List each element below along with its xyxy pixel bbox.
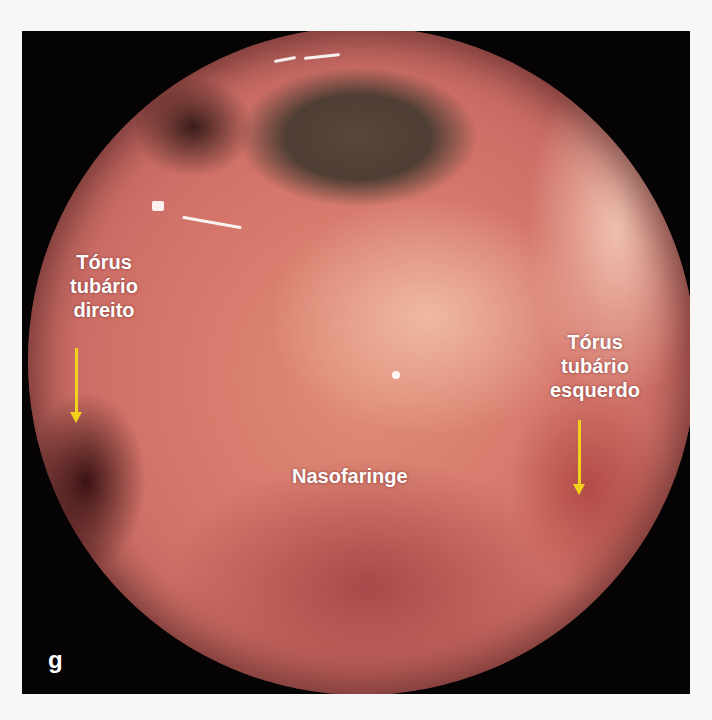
specular-highlight bbox=[392, 371, 400, 379]
arrow-right-torus-icon bbox=[75, 348, 78, 413]
label-line: tubário bbox=[50, 274, 158, 298]
label-line: Tórus bbox=[50, 250, 158, 274]
label-left-torus: Tórus tubário esquerdo bbox=[540, 330, 650, 402]
label-line: esquerdo bbox=[540, 378, 650, 402]
panel-letter: g bbox=[48, 646, 63, 674]
label-right-torus: Tórus tubário direito bbox=[50, 250, 158, 322]
label-line: tubário bbox=[540, 354, 650, 378]
arrow-left-torus-icon bbox=[578, 420, 581, 485]
label-line: Tórus bbox=[540, 330, 650, 354]
specular-highlight bbox=[152, 201, 164, 211]
label-nasopharynx: Nasofaringe bbox=[292, 464, 408, 488]
label-line: direito bbox=[50, 298, 158, 322]
